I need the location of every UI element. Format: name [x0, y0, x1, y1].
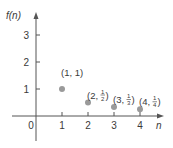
data-points: (1, 1)(2, 12)(3, 13)(4, 14) [59, 67, 161, 112]
data-point-label: (3, 13) [113, 93, 135, 106]
point-label-prefix: (4, [139, 96, 150, 107]
fraction-numerator: 1 [153, 95, 157, 101]
x-axis-label: n [156, 120, 162, 131]
data-point-label: (2, 12) [87, 89, 109, 102]
fraction-denominator: 3 [127, 100, 131, 106]
fraction-denominator: 2 [101, 96, 105, 102]
fraction-numerator: 1 [127, 93, 131, 99]
point-label-prefix: (3, [113, 94, 124, 105]
y-tick-label: 3 [23, 30, 29, 41]
y-tick-label: 2 [23, 57, 29, 68]
y-tick-label: 1 [23, 84, 29, 95]
data-point-label: (4, 14) [139, 95, 161, 108]
fraction-denominator: 4 [153, 102, 157, 108]
chart: 01234123 (1, 1)(2, 12)(3, 13)(4, 14) f(n… [0, 0, 173, 148]
point-label-text: (1, 1) [61, 67, 83, 78]
data-point-label: (1, 1) [61, 67, 83, 78]
fraction-numerator: 1 [101, 89, 105, 95]
y-axis-label: f(n) [6, 10, 21, 21]
point-label-prefix: (2, [87, 90, 98, 101]
data-point [59, 86, 65, 92]
point-label-suffix: ) [158, 96, 161, 107]
x-tick-label: 0 [28, 120, 34, 131]
x-tick-label: 4 [137, 120, 143, 131]
point-label-suffix: ) [132, 94, 135, 105]
y-axis-arrow [34, 12, 39, 19]
x-tick-label: 3 [111, 120, 117, 131]
x-tick-label: 1 [59, 120, 65, 131]
x-tick-label: 2 [85, 120, 91, 131]
x-axis-arrow [157, 114, 164, 119]
point-label-suffix: ) [106, 90, 109, 101]
